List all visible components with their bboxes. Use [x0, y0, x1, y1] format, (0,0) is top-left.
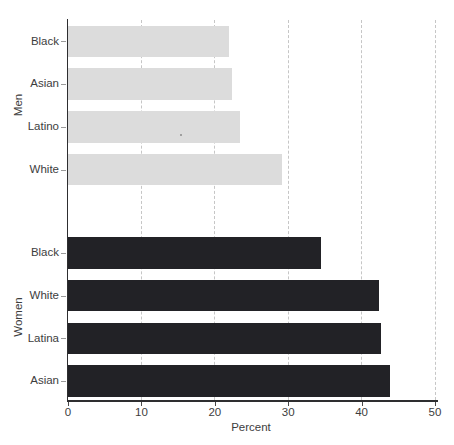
- x-tick-label-0: 0: [65, 406, 71, 418]
- category-label-women-white: White: [0, 280, 59, 312]
- bar-women-black: [68, 237, 321, 269]
- category-tick-men-asian: [61, 84, 66, 85]
- x-tick-10: [141, 402, 142, 406]
- x-axis-line: [67, 400, 438, 402]
- x-tick-label-50: 50: [429, 406, 442, 418]
- group-label-women: Women: [12, 297, 24, 336]
- bar-men-white: [68, 154, 282, 186]
- x-tick-label-20: 20: [208, 406, 221, 418]
- category-tick-women-white: [61, 296, 66, 297]
- category-label-men-white: White: [0, 154, 59, 186]
- x-tick-0: [68, 402, 69, 406]
- x-tick-50: [435, 402, 436, 406]
- category-tick-men-black: [61, 41, 66, 42]
- x-tick-30: [288, 402, 289, 406]
- group-label-men: Men: [12, 94, 24, 116]
- category-label-men-asian: Asian: [0, 68, 59, 100]
- bar-chart: BlackAsianLatinoWhiteBlackWhiteLatinaAsi…: [0, 0, 454, 445]
- category-label-men-black: Black: [0, 26, 59, 58]
- bar-women-latina: [68, 323, 381, 355]
- x-axis-title: Percent: [231, 421, 271, 433]
- bar-men-black: [68, 26, 229, 58]
- x-tick-label-30: 30: [282, 406, 295, 418]
- category-label-men-latino: Latino: [0, 111, 59, 143]
- x-tick-label-40: 40: [355, 406, 368, 418]
- category-tick-women-asian: [61, 381, 66, 382]
- bar-men-latino: [68, 111, 240, 143]
- bar-men-asian: [68, 68, 232, 100]
- bar-women-white: [68, 280, 379, 312]
- x-tick-label-10: 10: [135, 406, 148, 418]
- category-label-women-black: Black: [0, 237, 59, 269]
- artifact-dot: [180, 134, 182, 136]
- category-tick-men-latino: [61, 127, 66, 128]
- y-axis-line: [67, 19, 69, 402]
- x-tick-40: [362, 402, 363, 406]
- category-label-women-latina: Latina: [0, 323, 59, 355]
- category-tick-women-black: [61, 253, 66, 254]
- x-tick-20: [215, 402, 216, 406]
- category-tick-men-white: [61, 170, 66, 171]
- bar-women-asian: [68, 365, 390, 397]
- category-tick-women-latina: [61, 338, 66, 339]
- gridline-50: [435, 20, 436, 400]
- category-label-women-asian: Asian: [0, 365, 59, 397]
